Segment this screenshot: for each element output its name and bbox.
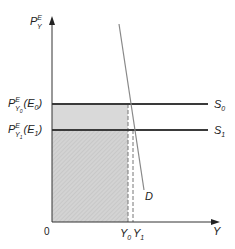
demand-label: D [145, 190, 153, 202]
price-level-1-label: PEY1(E1) [8, 122, 42, 140]
supply-s1-label: S1 [214, 124, 225, 138]
revenue-rectangle [52, 130, 128, 222]
y1-label: Y1 [133, 227, 144, 241]
supply-demand-diagram: PEY PEY0(E0) PEY1(E1) S0 S1 D 0 Y0 Y1 Y [0, 0, 235, 249]
surplus-band [52, 104, 128, 130]
y-axis-label: PEY [30, 14, 43, 30]
x-axis-label: Y [213, 225, 221, 237]
supply-s0-label: S0 [214, 98, 225, 112]
y-axis-arrow-icon [49, 16, 55, 25]
y0-label: Y0 [120, 227, 131, 241]
price-level-0-label: PEY0(E0) [8, 96, 42, 114]
origin-label: 0 [44, 226, 50, 237]
